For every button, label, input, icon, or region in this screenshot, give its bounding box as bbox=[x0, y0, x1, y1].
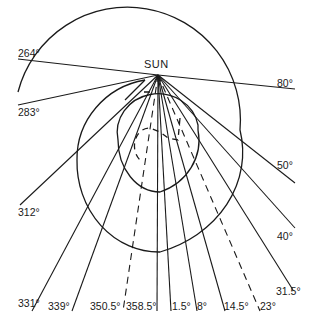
ray-angle-label: 339° bbox=[48, 301, 70, 312]
ray-angle-label: 350.5° bbox=[90, 301, 120, 312]
comet-orbit-diagram bbox=[0, 0, 312, 326]
sun-label: SUN bbox=[144, 59, 169, 70]
ray-angle-label: 14.5° bbox=[224, 301, 249, 312]
ray-line bbox=[18, 59, 158, 75]
ray-angle-label: 264° bbox=[18, 48, 40, 59]
ray-angle-label: 40° bbox=[277, 231, 293, 242]
ray-angle-label: 1.5° bbox=[172, 301, 191, 312]
ray-angle-label: 283° bbox=[18, 107, 40, 118]
ray-line bbox=[157, 75, 158, 311]
ray-angle-label: 50° bbox=[277, 160, 293, 171]
ray-angle-label: 358.5° bbox=[126, 301, 156, 312]
ray-angle-label: 8° bbox=[197, 301, 207, 312]
ray-line bbox=[18, 75, 158, 105]
ray-lines bbox=[18, 59, 295, 311]
ray-line bbox=[158, 75, 171, 311]
ray-line bbox=[72, 75, 158, 311]
ray-angle-label: 312° bbox=[18, 207, 40, 218]
ray-line bbox=[32, 75, 158, 311]
ray-line bbox=[158, 75, 295, 89]
spiral-outer-loop bbox=[18, 7, 243, 252]
ray-angle-label: 80° bbox=[277, 78, 293, 89]
ray-angle-label: 23° bbox=[260, 301, 276, 312]
ray-line bbox=[158, 75, 260, 311]
ray-line bbox=[20, 75, 158, 205]
ray-line bbox=[123, 75, 158, 311]
ray-angle-label: 331° bbox=[18, 298, 40, 309]
ray-angle-label: 31.5° bbox=[276, 286, 301, 297]
